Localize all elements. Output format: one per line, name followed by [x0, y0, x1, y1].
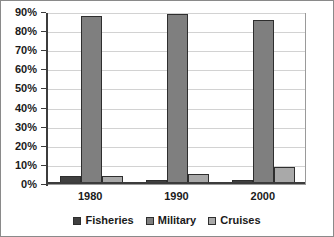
- legend-item-label: Cruises: [220, 215, 260, 226]
- y-axis-tick-label: 70%: [0, 45, 37, 56]
- y-axis-tick-mark: [41, 127, 46, 128]
- legend-item-label: Military: [158, 215, 197, 226]
- y-axis-tick-mark: [41, 12, 46, 13]
- legend-item[interactable]: Military: [146, 215, 197, 226]
- legend-item[interactable]: Cruises: [208, 215, 260, 226]
- legend-swatch-icon: [146, 217, 154, 225]
- y-axis-tick-mark: [41, 146, 46, 147]
- bar: [81, 16, 102, 184]
- y-axis-tick-label: 0%: [0, 179, 37, 190]
- x-axis-tick-label: 1980: [60, 191, 120, 202]
- y-axis-tick-mark: [41, 88, 46, 89]
- plot-area: [47, 13, 306, 185]
- y-axis-tick-mark: [41, 108, 46, 109]
- y-axis-tick-mark: [41, 50, 46, 51]
- legend-swatch-icon: [208, 217, 216, 225]
- y-axis-tick-mark: [41, 184, 46, 185]
- legend-item[interactable]: Fisheries: [73, 215, 133, 226]
- y-axis-tick-label: 20%: [0, 141, 37, 152]
- legend-item-label: Fisheries: [85, 215, 133, 226]
- bar: [253, 20, 274, 184]
- bar: [167, 14, 188, 184]
- y-axis-tick-mark: [41, 165, 46, 166]
- y-axis-tick-mark: [41, 69, 46, 70]
- y-axis-tick-label: 10%: [0, 160, 37, 171]
- y-axis-tick-label: 80%: [0, 26, 37, 37]
- x-axis-tick-label: 2000: [233, 191, 293, 202]
- y-axis-tick-label: 50%: [0, 83, 37, 94]
- y-axis-tick-label: 30%: [0, 122, 37, 133]
- y-axis-tick-label: 40%: [0, 103, 37, 114]
- y-axis-tick-label: 90%: [0, 7, 37, 18]
- y-axis-tick-mark: [41, 31, 46, 32]
- x-axis-line: [48, 182, 305, 184]
- y-axis-tick-label: 60%: [0, 64, 37, 75]
- bar-chart-figure: 90%80%70%60%50%40%30%20%10%0% 1980199020…: [0, 0, 334, 237]
- chart-legend: FisheriesMilitaryCruises: [1, 215, 333, 226]
- legend-swatch-icon: [73, 217, 81, 225]
- y-axis-line: [46, 13, 48, 186]
- x-axis-tick-label: 1990: [147, 191, 207, 202]
